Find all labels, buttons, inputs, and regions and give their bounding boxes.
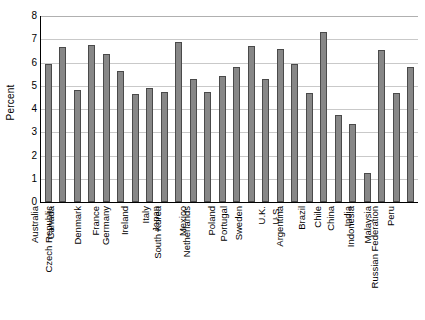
bar-slot xyxy=(85,16,100,202)
bar xyxy=(407,67,414,202)
bar xyxy=(262,79,269,202)
bar-slot xyxy=(230,16,245,202)
y-tick-label: 7 xyxy=(31,34,37,44)
bar xyxy=(364,173,371,202)
y-axis-tick-labels: 012345678 xyxy=(22,10,37,202)
bar xyxy=(74,90,81,202)
x-tick-label: Chile xyxy=(313,206,323,228)
bar-slot xyxy=(288,16,303,202)
x-tick-label: Brazil xyxy=(297,206,307,230)
y-tick-label: 3 xyxy=(31,127,37,137)
bar-slot xyxy=(186,16,201,202)
bar-slot xyxy=(128,16,143,202)
bar xyxy=(248,46,255,202)
bar xyxy=(117,71,124,202)
bar-slot xyxy=(157,16,172,202)
bar-slot xyxy=(331,16,346,202)
bar xyxy=(146,88,153,202)
bar-slot xyxy=(244,16,259,202)
x-tick-label: Sweden xyxy=(234,206,244,240)
x-tick-label: Netherlands xyxy=(182,206,192,257)
bar-slot xyxy=(317,16,332,202)
y-tick-label: 4 xyxy=(31,104,37,114)
bar-slot xyxy=(259,16,274,202)
bar-slot xyxy=(172,16,187,202)
bar xyxy=(45,64,52,202)
bar-slot xyxy=(201,16,216,202)
bar-slot xyxy=(215,16,230,202)
bar-slot xyxy=(143,16,158,202)
bar xyxy=(161,92,168,202)
x-tick-label: Peru xyxy=(386,206,396,226)
bar xyxy=(393,93,400,202)
bar xyxy=(132,94,139,202)
x-tick-label: Poland xyxy=(207,206,217,236)
x-slot: Peru xyxy=(389,204,404,318)
bar-series xyxy=(41,16,418,202)
bar-slot xyxy=(273,16,288,202)
y-tick-label: 6 xyxy=(31,58,37,68)
bar xyxy=(349,124,356,202)
y-tick-label: 5 xyxy=(31,81,37,91)
bar-slot xyxy=(346,16,361,202)
y-axis-title: Percent xyxy=(0,0,22,205)
x-tick-label: Indonesia xyxy=(347,206,357,247)
x-tick-label: Germany xyxy=(101,206,111,245)
bar-slot xyxy=(360,16,375,202)
bar-slot xyxy=(404,16,419,202)
bar-slot xyxy=(375,16,390,202)
bar-slot xyxy=(389,16,404,202)
x-tick-label: China xyxy=(326,206,336,231)
y-tick-label: 2 xyxy=(31,151,37,161)
bar xyxy=(59,47,66,202)
bar-slot xyxy=(114,16,129,202)
bar xyxy=(88,45,95,202)
x-tick-label: Argentina xyxy=(274,206,284,247)
x-axis-tick-labels: AustraliaCanadaCzech RepublicDenmarkFran… xyxy=(41,204,418,318)
x-slot: Russian Federation xyxy=(404,204,419,318)
bar-slot xyxy=(56,16,71,202)
x-slot: Canada xyxy=(56,204,71,318)
bar xyxy=(219,76,226,202)
bar-slot xyxy=(70,16,85,202)
bar-chart: Percent 012345678 AustraliaCanadaCzech R… xyxy=(0,0,425,320)
bar-slot xyxy=(302,16,317,202)
y-axis-title-text: Percent xyxy=(6,85,17,121)
bar xyxy=(204,92,211,202)
x-tick-label: Russian Federation xyxy=(370,206,380,288)
y-tick-label: 1 xyxy=(31,174,37,184)
bar xyxy=(175,42,182,202)
bar xyxy=(306,93,313,202)
x-tick-label: Ireland xyxy=(121,206,131,235)
bar xyxy=(103,54,110,202)
y-tick-label: 8 xyxy=(31,11,37,21)
x-tick-label: South Korea xyxy=(152,206,162,259)
x-tick-label: Denmark xyxy=(72,206,82,245)
x-tick-label: U.K. xyxy=(257,206,267,224)
x-tick-label: Australia xyxy=(30,206,40,243)
x-tick-label: Czech Republic xyxy=(44,206,54,273)
plot-area xyxy=(40,16,418,203)
bar xyxy=(233,67,240,202)
bar-slot xyxy=(99,16,114,202)
bar xyxy=(320,32,327,202)
bar xyxy=(277,49,284,202)
bar xyxy=(291,64,298,202)
bar xyxy=(335,115,342,202)
bar xyxy=(378,50,385,202)
x-tick-label: Portugal xyxy=(219,206,229,241)
bar-slot xyxy=(41,16,56,202)
bar xyxy=(190,79,197,202)
